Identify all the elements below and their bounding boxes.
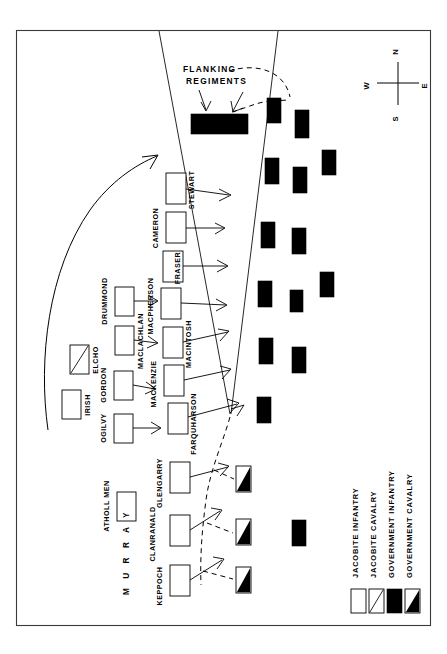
unit-box-maclachlan[interactable] <box>115 326 134 355</box>
unit-label-ogilvy: OGILVY <box>100 413 108 443</box>
unit-label-cameron: CAMERON <box>152 208 160 249</box>
unit-label-atholl-men: ATHOLL MEN <box>103 480 111 531</box>
unit-label-keppoch: KEPPOCH <box>156 567 164 606</box>
government-cavalry-movement <box>201 417 234 585</box>
unit-label-macintosh: MACINTOSH <box>185 320 193 368</box>
unit-box-stewart[interactable] <box>166 173 186 204</box>
unit-box-mackenzie[interactable] <box>164 365 184 396</box>
unit-label-elcho: ELCHO <box>92 346 100 374</box>
unit-label-maclachlan: MACLACHLAN <box>137 313 145 369</box>
compass-north-label: N <box>391 49 400 54</box>
gov-infantry-block[interactable] <box>265 158 279 184</box>
gov-infantry-block[interactable] <box>292 228 306 254</box>
gov-cavalry-block[interactable] <box>236 519 251 545</box>
compass-south-label: S <box>391 116 400 121</box>
gov-infantry-block[interactable] <box>259 338 273 364</box>
charge-arrow-glengarry <box>190 467 228 477</box>
unit-label-drummond: DRUMMOND <box>101 277 109 324</box>
unit-box-cameron[interactable] <box>166 212 186 243</box>
unit-box-ogilvy[interactable] <box>114 414 133 443</box>
government-infantry-group <box>257 98 336 546</box>
gov-infantry-block[interactable] <box>261 222 275 248</box>
unit-label-farquharson: FARQUHARSON <box>190 393 198 455</box>
legend-swatch-jacobite-infantry <box>351 589 366 613</box>
charge-arrow-keppoch <box>190 560 222 580</box>
battle-map: N S E W FLANKING REGIMENTS <box>0 0 447 654</box>
unit-box-glengarry[interactable] <box>170 462 190 493</box>
map-canvas: N S E W FLANKING REGIMENTS <box>0 0 447 654</box>
unit-box-clanranald[interactable] <box>170 515 190 546</box>
legend-label-government-infantry: GOVERNMENT INFANTRY <box>387 470 396 578</box>
government-cavalry-group <box>236 466 251 593</box>
map-legend: JACOBITE INFANTRY JACOBITE CAVALRY GOVER… <box>351 470 420 613</box>
unit-box-macintosh[interactable] <box>163 327 183 358</box>
gov-infantry-block[interactable] <box>257 397 271 423</box>
unit-box-keppoch[interactable] <box>170 565 190 596</box>
unit-label-irish: IRISH <box>84 394 92 416</box>
unit-box-farquharson[interactable] <box>168 403 188 434</box>
charge-arrow-clanranald <box>190 511 220 530</box>
legend-label-jacobite-cavalry: JACOBITE CAVALRY <box>369 491 378 578</box>
compass-rose: N S E W <box>362 49 429 121</box>
legend-swatch-government-cavalry <box>405 589 420 613</box>
unit-label-mackenzie: MACKENZIE <box>150 360 158 407</box>
legend-label-government-cavalry: GOVERNMENT CAVALRY <box>405 473 414 578</box>
unit-box-macpherson[interactable] <box>161 288 181 319</box>
gov-infantry-block[interactable] <box>322 150 336 175</box>
gov-infantry-block[interactable] <box>320 272 334 297</box>
charge-arrow-macpherson <box>181 303 226 305</box>
unit-label-gordon: GORDON <box>100 367 108 402</box>
unit-box-gordon[interactable] <box>114 371 133 400</box>
compass-east-label: E <box>420 83 429 88</box>
gov-infantry-block[interactable] <box>295 110 309 138</box>
gov-infantry-block[interactable] <box>258 281 272 307</box>
flanking-label-line2: REGIMENTS <box>186 76 247 86</box>
gov-cavalry-block[interactable] <box>236 466 251 492</box>
gov-infantry-block[interactable] <box>292 347 306 373</box>
unit-box-irish[interactable] <box>62 390 81 419</box>
unit-label-fraser: FRASER <box>174 252 182 284</box>
unit-label-clanranald: CLANRANALD <box>149 506 157 561</box>
legend-swatch-jacobite-cavalry <box>369 589 384 613</box>
legend-swatch-government-infantry <box>387 589 402 613</box>
commander-label-murray: M U R R A Y <box>122 509 131 595</box>
unit-box-drummond[interactable] <box>115 287 134 316</box>
unit-label-macpherson: MACPHERSON <box>147 278 155 335</box>
legend-label-jacobite-infantry: JACOBITE INFANTRY <box>351 487 360 578</box>
gov-infantry-block[interactable] <box>267 98 281 123</box>
compass-west-label: W <box>362 82 371 90</box>
gov-cavalry-block[interactable] <box>236 567 251 593</box>
jacobite-front-line-group: STEWART CAMERON FRASER MACPHERSON MACINT… <box>147 171 244 606</box>
unit-label-glengarry: GLENGARRY <box>156 458 164 508</box>
gov-infantry-block[interactable] <box>292 520 306 546</box>
flanking-regiments-bar <box>191 114 248 134</box>
gov-infantry-block[interactable] <box>293 167 307 193</box>
flanking-label-line1: FLANKING <box>183 64 236 74</box>
flanking-arrow-left <box>199 90 206 110</box>
gov-infantry-block[interactable] <box>290 290 303 312</box>
